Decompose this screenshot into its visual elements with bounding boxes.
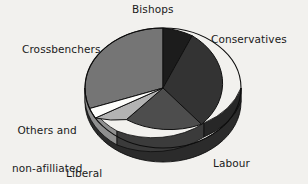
pie-label-crossbenchers: Crossbenchers	[22, 43, 101, 56]
pie-chart: Bishops Conservatives Crossbenchers Othe…	[0, 0, 308, 184]
pie-label-labour: Labour	[213, 157, 250, 170]
pie-label-bishops: Bishops	[132, 3, 174, 16]
pie-label-conservatives: Conservatives	[211, 33, 287, 46]
pie-label-libdem-line1: Liberal	[55, 167, 113, 180]
pie-label-liberal-democrats: Liberal Democrats	[55, 142, 113, 184]
pie-slices	[85, 28, 223, 130]
pie-label-others-line1: Others and	[12, 124, 82, 137]
